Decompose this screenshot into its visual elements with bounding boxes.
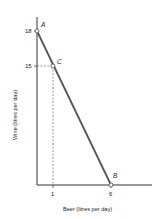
point-b-label: B — [113, 172, 118, 179]
y-axis-title: Wine (litres per day) — [12, 90, 18, 140]
tick-label-y15: 15 — [25, 63, 32, 69]
tick-label-x6: 6 — [109, 191, 113, 197]
point-c-label: C — [57, 58, 62, 65]
x-axis-title: Beer (litres per day) — [63, 206, 112, 212]
point-a-label: A — [40, 21, 45, 28]
budget-line — [37, 31, 111, 185]
tick-label-y18: 18 — [25, 28, 32, 34]
tick-label-x1: 1 — [51, 191, 55, 197]
chart: A C B 18 15 1 6 Beer (litres per day) Wi… — [0, 0, 156, 219]
point-a-marker — [35, 29, 39, 33]
point-b-marker — [109, 183, 113, 187]
point-c-marker — [51, 64, 55, 68]
